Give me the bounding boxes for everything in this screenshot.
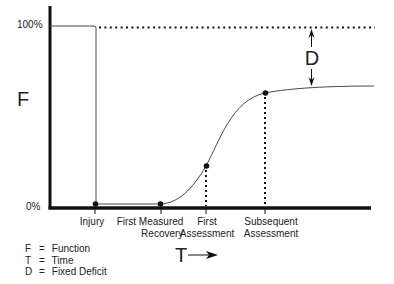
subsequent-assessment-point: [263, 90, 269, 96]
legend-item-function: F= Function: [25, 243, 107, 255]
event-label-injury: Injury: [80, 216, 104, 228]
function-time-diagram: [0, 0, 394, 284]
legend-item-time: T= Time: [25, 255, 107, 267]
injury-point: [93, 201, 99, 207]
event-label-first-measured-recovery: First Measured Recovery: [117, 216, 184, 240]
first-measured-recovery-point: [158, 201, 164, 207]
legend-item-fixed-deficit: D= Fixed Deficit: [25, 266, 107, 278]
function-curve-pre-injury: [50, 26, 96, 204]
time-arrow-icon: [188, 251, 218, 259]
y-tick-100-percent: 100%: [17, 19, 43, 31]
y-axis-label: F: [17, 88, 29, 110]
recovery-curve: [161, 86, 374, 204]
event-label-first-assessment: First Assessment Assessment: [180, 216, 234, 240]
fixed-deficit-label: D: [305, 47, 319, 69]
first-assessment-point: [204, 163, 210, 169]
y-tick-0-percent: 0%: [26, 201, 40, 213]
event-label-subsequent-assessment: Subsequent Assessment: [244, 216, 298, 240]
x-axis-label: T: [175, 244, 187, 266]
legend: F= Function T= Time D= Fixed Deficit: [25, 243, 107, 278]
